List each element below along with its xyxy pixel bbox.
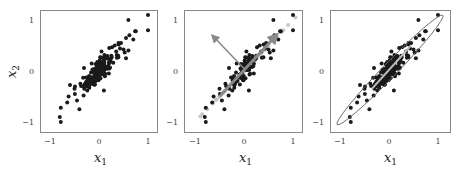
data-point — [286, 23, 290, 27]
data-point — [117, 43, 121, 47]
data-point — [90, 61, 94, 65]
panel-1: 1 0 −1 −1 0 1 x1 x2 — [4, 11, 158, 168]
data-point — [358, 83, 362, 87]
data-point — [261, 55, 265, 59]
data-point — [94, 62, 98, 66]
data-point — [271, 18, 275, 22]
panel-1-yticks: 1 0 −1 — [22, 16, 34, 127]
data-point — [100, 68, 104, 72]
data-point — [59, 120, 63, 124]
data-point — [218, 87, 222, 91]
data-point — [406, 54, 410, 58]
data-point — [126, 18, 130, 22]
data-point — [109, 54, 113, 58]
data-point — [234, 70, 238, 74]
data-point — [247, 56, 251, 60]
data-point — [82, 66, 86, 70]
data-point — [59, 106, 63, 110]
data-point — [223, 82, 227, 86]
data-point — [82, 94, 86, 98]
data-point — [244, 50, 248, 54]
data-point — [146, 13, 150, 17]
data-point — [82, 87, 86, 91]
data-point — [100, 50, 104, 54]
data-point — [267, 48, 271, 52]
panel-3: 1 0 −1 −1 0 1 x1 — [312, 10, 450, 167]
data-point — [412, 48, 416, 52]
data-point — [220, 99, 224, 103]
data-point — [118, 47, 122, 51]
data-point — [258, 44, 262, 48]
xtick-1: 1 — [435, 137, 440, 146]
data-point — [276, 37, 280, 41]
data-point — [222, 107, 226, 111]
data-point — [67, 95, 71, 99]
data-point — [88, 83, 92, 87]
data-point — [113, 44, 117, 48]
data-point — [248, 73, 252, 77]
data-point — [416, 18, 420, 22]
data-point — [78, 82, 82, 86]
data-point — [126, 49, 130, 53]
data-point — [73, 87, 77, 91]
ytick-1: 1 — [173, 16, 178, 25]
data-point — [198, 114, 202, 118]
panel-2: 1 0 −1 −1 0 1 x1 — [166, 11, 302, 168]
data-point — [436, 28, 440, 32]
data-point — [204, 106, 208, 110]
data-point — [204, 120, 208, 124]
data-point — [75, 99, 79, 103]
data-point — [421, 37, 425, 41]
ytick-1: 1 — [29, 16, 34, 25]
data-point — [107, 72, 111, 76]
data-point — [90, 68, 94, 72]
data-point — [214, 98, 218, 102]
xtick-neg1: −1 — [189, 137, 201, 146]
data-point — [116, 54, 120, 58]
data-point — [203, 115, 207, 119]
ytick-neg1: −1 — [312, 118, 324, 127]
data-point — [390, 72, 394, 76]
ytick-0: 0 — [319, 67, 324, 76]
data-point — [124, 56, 128, 60]
data-point — [244, 76, 248, 80]
data-point — [131, 37, 135, 41]
data-point — [122, 48, 126, 52]
data-point — [114, 50, 118, 54]
data-point — [247, 88, 251, 92]
data-point — [417, 33, 421, 37]
data-point — [127, 33, 131, 37]
ytick-0: 0 — [173, 67, 178, 76]
panel-2-yticks: 1 0 −1 — [166, 16, 178, 127]
data-point — [269, 56, 273, 60]
panel-3-yticks: 1 0 −1 — [312, 16, 324, 127]
data-point — [349, 106, 353, 110]
data-point — [279, 29, 283, 33]
panel-2-xticks: −1 0 1 — [189, 137, 295, 146]
data-point — [134, 29, 138, 33]
data-point — [77, 107, 81, 111]
data-point — [99, 76, 103, 80]
data-point — [291, 13, 295, 17]
xtick-neg1: −1 — [334, 137, 346, 146]
ytick-neg1: −1 — [22, 118, 34, 127]
data-point — [380, 61, 384, 65]
data-point — [252, 72, 256, 76]
data-point — [389, 50, 393, 54]
data-point — [68, 83, 72, 87]
ytick-0: 0 — [29, 67, 34, 76]
data-point — [58, 115, 62, 119]
xtick-neg1: −1 — [44, 137, 56, 146]
x-axis-label: x1 — [94, 150, 107, 167]
ytick-1: 1 — [319, 16, 324, 25]
data-point — [414, 56, 418, 60]
y-axis-label: x2 — [4, 65, 21, 78]
data-point — [363, 92, 367, 96]
data-point — [102, 88, 106, 92]
data-point — [355, 101, 359, 105]
xtick-0: 0 — [96, 137, 101, 146]
data-point — [378, 83, 382, 87]
data-point — [73, 92, 77, 96]
data-point — [250, 65, 254, 69]
x-axis-label: x1 — [239, 150, 252, 167]
